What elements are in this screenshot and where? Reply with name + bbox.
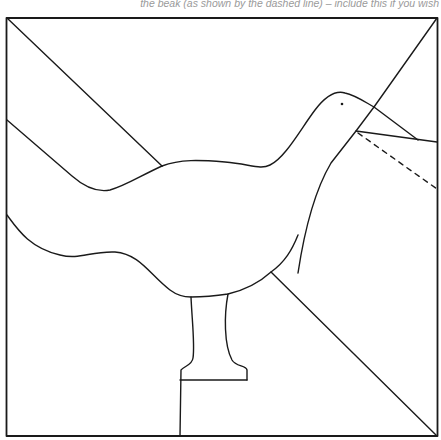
goose-belly <box>7 215 298 297</box>
goose-back <box>162 92 418 167</box>
leg <box>180 297 194 436</box>
diagonal-top-right <box>374 18 437 107</box>
goose-quilt-diagram <box>0 0 441 440</box>
background-band <box>7 120 162 191</box>
diagonal-bottom-right <box>271 272 436 435</box>
beak-dashed-option <box>358 133 437 189</box>
leg-back <box>225 294 247 380</box>
diagonal-top-left <box>7 18 162 166</box>
eye <box>341 103 344 106</box>
